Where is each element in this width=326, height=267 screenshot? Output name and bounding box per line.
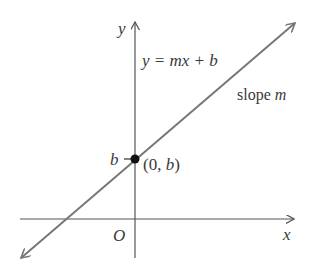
point-label-var: b: [166, 155, 175, 174]
point-label-close: ): [174, 155, 180, 174]
equation-label: y = mx + b: [140, 51, 218, 70]
slope-intercept-diagram: y x O y = mx + b slope m b (0, b): [0, 0, 326, 267]
slope-word: slope: [237, 86, 271, 104]
point-label: (0, b): [143, 155, 180, 174]
y-intercept-point: [131, 155, 140, 164]
x-axis-label: x: [282, 225, 291, 244]
slope-label: slope m: [237, 86, 286, 104]
y-axis-label: y: [116, 19, 126, 38]
point-label-open: (0,: [143, 155, 166, 174]
origin-label: O: [113, 226, 125, 245]
intercept-b-label: b: [110, 150, 119, 169]
slope-var: m: [275, 86, 287, 103]
